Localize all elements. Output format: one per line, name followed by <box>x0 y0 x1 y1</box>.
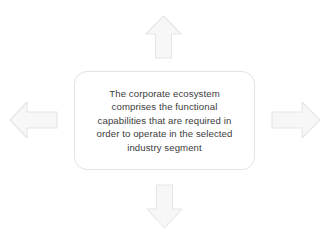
arrow-up-icon <box>145 15 182 59</box>
center-box-text: The corporate ecosystem comprises the fu… <box>90 87 240 154</box>
center-box: The corporate ecosystem comprises the fu… <box>74 71 255 170</box>
diagram-canvas: The corporate ecosystem comprises the fu… <box>0 0 330 233</box>
arrow-down-icon <box>146 184 183 229</box>
arrow-left-icon <box>9 101 58 139</box>
arrow-right-icon <box>271 101 321 139</box>
